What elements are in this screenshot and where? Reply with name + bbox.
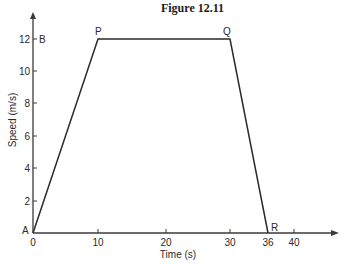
svg-text:0: 0: [30, 237, 36, 248]
svg-text:10: 10: [19, 66, 31, 77]
x-tick-labels: 0 10 20 30 36 40: [30, 237, 300, 248]
figure-title: Figure 12.11: [0, 1, 355, 16]
point-labels: A P Q R B: [22, 26, 278, 236]
svg-text:30: 30: [224, 237, 236, 248]
svg-text:6: 6: [24, 131, 30, 142]
svg-text:8: 8: [24, 98, 30, 109]
svg-text:4: 4: [24, 163, 30, 174]
figure: Figure 12.11 2 4 6 8 10: [0, 0, 355, 264]
speed-line: [33, 39, 268, 233]
label-r: R: [271, 222, 278, 233]
speed-time-graph: 2 4 6 8 10 12 0 10 20 30 36 40 Time (s) …: [0, 0, 355, 264]
label-a: A: [22, 225, 29, 236]
label-b: B: [39, 34, 46, 45]
svg-text:20: 20: [160, 237, 172, 248]
x-axis-label: Time (s): [160, 249, 196, 260]
y-axis-label: Speed (m/s): [7, 93, 18, 147]
label-q: Q: [223, 26, 231, 37]
svg-text:2: 2: [24, 196, 30, 207]
svg-text:12: 12: [19, 34, 31, 45]
label-p: P: [95, 26, 102, 37]
y-tick-labels: 2 4 6 8 10 12: [19, 34, 31, 207]
svg-text:36: 36: [262, 237, 274, 248]
svg-text:40: 40: [288, 237, 300, 248]
x-axis-arrow-icon: [331, 230, 339, 236]
svg-text:10: 10: [92, 237, 104, 248]
